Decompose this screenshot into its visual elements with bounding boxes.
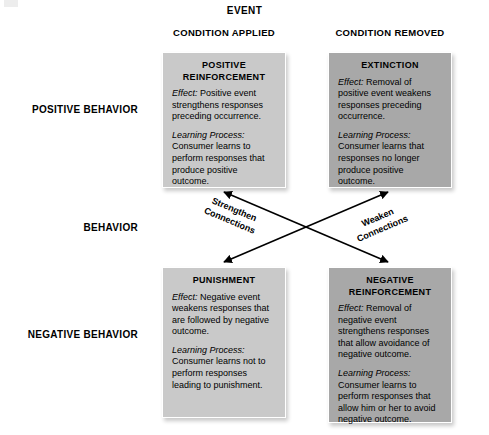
column-header-condition-applied: CONDITION APPLIED [162,27,286,38]
quadrant-learning-process: Learning Process:Consumer learns to perf… [172,130,276,188]
column-header-condition-removed: CONDITION REMOVED [328,27,452,38]
quadrant-effect: Effect: Removal of positive event weaken… [338,77,442,123]
quadrant-learning-process: Learning Process:Consumer learns not to … [172,345,276,391]
event-axis-title: EVENT [0,5,489,16]
effect-label: Effect: [338,303,366,313]
learning-process-text: Consumer learns to perform responses tha… [338,380,436,425]
quadrant-title: POSITIVE REINFORCEMENT [172,60,276,83]
strengthen-connections-label: Strengthen Connections [194,190,270,240]
effect-label: Effect: [172,292,200,302]
row-header-negative-behavior: NEGATIVE BEHAVIOR [8,328,138,341]
quadrant-title: EXTINCTION [338,60,442,72]
learning-process-label: Learning Process: [338,368,411,378]
behavior-axis-title: BEHAVIOR [8,222,138,233]
quadrant-effect: Effect: Positive event strengthens respo… [172,88,276,123]
quadrant-extinction: EXTINCTION Effect: Removal of positive e… [328,52,452,188]
learning-process-text: Consumer learns that responses no longer… [338,141,424,186]
effect-label: Effect: [338,77,366,87]
learning-process-text: Consumer learns to perform responses tha… [172,141,265,186]
quadrant-learning-process: Learning Process:Consumer learns to perf… [338,368,442,426]
quadrant-title: NEGATIVE REINFORCEMENT [338,275,442,298]
quadrant-title: PUNISHMENT [172,275,276,287]
learning-process-label: Learning Process: [338,130,411,140]
operant-conditioning-diagram: EVENT CONDITION APPLIED CONDITION REMOVE… [0,0,489,435]
weaken-connections-label: Weaken Connections [342,198,418,248]
row-header-positive-behavior: POSITIVE BEHAVIOR [8,103,138,116]
learning-process-label: Learning Process: [172,345,245,355]
effect-label: Effect: [172,88,200,98]
learning-process-text: Consumer learns not to perform responses… [172,356,266,389]
quadrant-punishment: PUNISHMENT Effect: Negative event weaken… [162,267,286,418]
quadrant-negative-reinforcement: NEGATIVE REINFORCEMENT Effect: Removal o… [328,267,452,423]
quadrant-learning-process: Learning Process:Consumer learns that re… [338,130,442,188]
quadrant-effect: Effect: Negative event weakens responses… [172,292,276,338]
quadrant-positive-reinforcement: POSITIVE REINFORCEMENT Effect: Positive … [162,52,286,188]
learning-process-label: Learning Process: [172,130,245,140]
quadrant-effect: Effect: Removal of negative event streng… [338,303,442,361]
